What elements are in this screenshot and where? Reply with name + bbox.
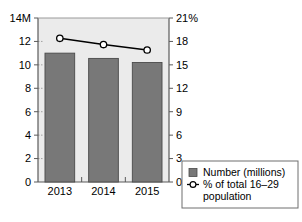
right-axis-tick-label: 0 [176, 176, 182, 188]
right-axis-tick-label: 3 [176, 152, 182, 164]
left-axis-tick-label: 0 [25, 176, 31, 188]
x-axis-category-label: 2014 [91, 185, 115, 197]
right-axis-tick-label: 21% [176, 12, 198, 24]
left-axis-tick-label: 2 [25, 152, 31, 164]
x-axis-category-label: 2013 [48, 185, 72, 197]
legend: Number (millions) % of total 16–29 popul… [182, 161, 298, 208]
chart-container: 02468101214M 036912151821% 201320142015 … [0, 0, 302, 222]
left-axis-tick-label: 4 [25, 129, 31, 141]
right-axis-tick-label: 9 [176, 106, 182, 118]
bar [89, 58, 119, 182]
left-axis-tick-label: 6 [25, 106, 31, 118]
dual-axis-bar-line-chart: 02468101214M 036912151821% 201320142015 … [0, 0, 302, 222]
x-axis-category-labels: 201320142015 [48, 185, 160, 197]
legend-label-percent: % of total 16–29 [203, 178, 279, 190]
left-axis-tick-label: 14M [10, 12, 31, 24]
bar [45, 53, 75, 182]
left-axis-tick-label: 8 [25, 82, 31, 94]
left-axis-tick-label: 10 [19, 59, 31, 71]
legend-label-number: Number (millions) [203, 166, 285, 178]
line-marker [100, 41, 106, 47]
bar [132, 63, 162, 182]
right-axis-tick-label: 6 [176, 129, 182, 141]
right-axis-tick-label: 12 [176, 82, 188, 94]
line-marker [144, 47, 150, 53]
left-axis-tick-label: 12 [19, 35, 31, 47]
right-axis-tick-label: 18 [176, 35, 188, 47]
x-axis-category-label: 2015 [135, 185, 159, 197]
bar-swatch-icon [189, 169, 197, 177]
right-axis-tick-label: 15 [176, 59, 188, 71]
line-marker [57, 35, 63, 41]
bar-series [45, 53, 162, 182]
legend-label-percent-line2: population [203, 190, 252, 202]
